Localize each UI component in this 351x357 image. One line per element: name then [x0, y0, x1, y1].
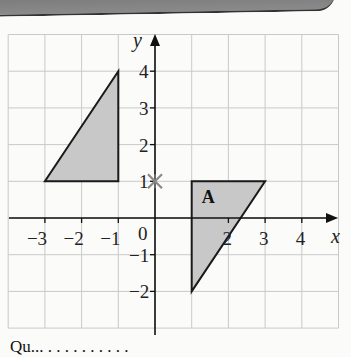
y-axis-label: y — [131, 29, 142, 52]
x-tick-label: 4 — [296, 228, 306, 249]
shape-label: A — [202, 187, 215, 207]
x-tick-label: −1 — [100, 228, 120, 249]
y-tick-label: −2 — [129, 281, 149, 302]
axes — [9, 34, 338, 335]
x-axis-arrow-icon — [326, 213, 338, 223]
y-axis-arrow-icon — [150, 34, 160, 46]
y-tick-label: 3 — [139, 98, 149, 119]
x-tick-label: −3 — [27, 228, 47, 249]
y-tick-label: 2 — [139, 135, 149, 156]
y-tick-label: −1 — [129, 245, 149, 266]
x-axis-label: x — [330, 225, 340, 247]
x-tick-label: 3 — [259, 228, 269, 249]
origin-label: 0 — [138, 223, 148, 244]
y-tick-label: 4 — [139, 61, 149, 82]
x-tick-label: −2 — [64, 228, 84, 249]
x-tick-label: 2 — [222, 228, 232, 249]
y-tick-label: 1 — [139, 171, 149, 192]
question-text: Qu... . . . . . . . . . . — [10, 337, 129, 357]
